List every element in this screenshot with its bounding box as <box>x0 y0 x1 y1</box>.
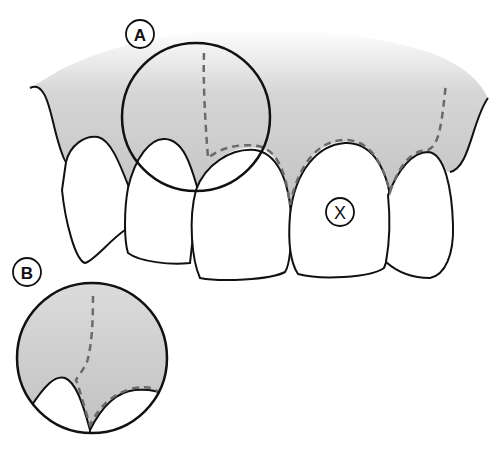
svg-text:A: A <box>134 26 146 45</box>
dental-diagram: A X B <box>0 0 502 451</box>
svg-text:X: X <box>334 203 346 223</box>
label-b: B <box>13 258 41 286</box>
label-a: A <box>126 20 154 48</box>
svg-text:B: B <box>21 264 33 283</box>
label-x: X <box>326 198 354 226</box>
detail-circle-b <box>15 280 175 440</box>
